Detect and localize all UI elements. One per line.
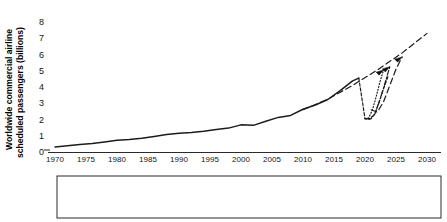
- y-tick-label: 4: [39, 82, 44, 92]
- x-tick-label: 2000: [232, 155, 250, 164]
- y-axis-title: Worldwide commercial airline scheduled p…: [4, 27, 25, 158]
- x-tick-label: 2030: [418, 155, 436, 164]
- x-tick-label: 1990: [170, 155, 188, 164]
- y-axis-title-line2: scheduled passengers (billions): [15, 27, 25, 158]
- x-tick-label: 1985: [139, 155, 157, 164]
- series-line-scenario-1c: [371, 57, 402, 112]
- x-tick-label: 2025: [387, 155, 405, 164]
- y-tick-label: 1: [39, 131, 44, 141]
- y-tick-label: 6: [39, 50, 44, 60]
- chart-series-group: [55, 33, 427, 147]
- series-line-exponential-growth-trend: [303, 33, 427, 109]
- y-tick-label: 8: [39, 17, 44, 27]
- chart-arrowheads: [376, 57, 402, 75]
- x-tick-label: 1975: [77, 155, 95, 164]
- chart-canvas: Worldwide commercial airline scheduled p…: [0, 0, 447, 222]
- y-tick-label: 5: [39, 66, 44, 76]
- y-axis-title-line1: Worldwide commercial airline: [4, 29, 14, 150]
- series-line-forecasted-2020-traffic: [359, 75, 389, 120]
- x-axis-tick-labels: 1970197519801985199019952000200520102015…: [46, 155, 436, 164]
- y-axis-tick-labels: 012345678: [39, 17, 44, 157]
- x-tick-label: 2015: [325, 155, 343, 164]
- x-tick-label: 2010: [294, 155, 312, 164]
- x-tick-label: 1970: [46, 155, 64, 164]
- y-tick-label: 7: [39, 33, 44, 43]
- y-tick-label: 3: [39, 98, 44, 108]
- chart-figure: Worldwide commercial airline scheduled p…: [0, 0, 447, 222]
- x-tick-label: 1995: [201, 155, 219, 164]
- x-tick-label: 2020: [356, 155, 374, 164]
- series-line-actual-traffic: [55, 78, 359, 147]
- y-tick-label: 0: [39, 147, 44, 157]
- y-tick-label: 2: [39, 115, 44, 125]
- legend-box: [57, 176, 441, 218]
- x-tick-label: 1980: [108, 155, 126, 164]
- x-tick-label: 2005: [263, 155, 281, 164]
